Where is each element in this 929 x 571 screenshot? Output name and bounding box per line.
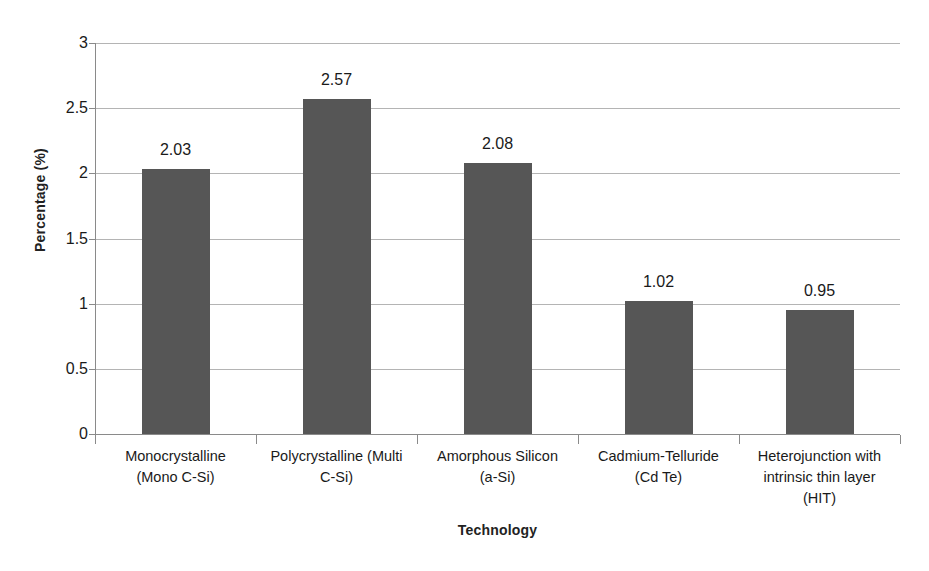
bar-value-label: 1.02 — [609, 274, 709, 290]
category-label-line: Monocrystalline — [95, 446, 256, 467]
category-label-line: (Mono C-Si) — [95, 467, 256, 488]
y-axis-tick-label: 1 — [28, 296, 88, 312]
bar[interactable] — [464, 163, 532, 434]
category-label-line: (a-Si) — [417, 467, 578, 488]
x-axis-category-label: Cadmium-Telluride(Cd Te) — [578, 446, 739, 488]
bar-value-label: 2.03 — [126, 142, 226, 158]
y-axis-tick-label: 0 — [28, 426, 88, 442]
x-axis-category-label: Amorphous Silicon(a-Si) — [417, 446, 578, 488]
category-label-line: Amorphous Silicon — [417, 446, 578, 467]
y-axis-tick — [89, 173, 96, 174]
bar[interactable] — [625, 301, 693, 434]
category-label-line: Heterojunction with — [739, 446, 900, 467]
category-label-line: Polycrystalline (Multi — [256, 446, 417, 467]
y-axis-tick-label: 0.5 — [28, 361, 88, 377]
y-axis-tick-label: 2 — [28, 165, 88, 181]
x-axis-category-label: Monocrystalline(Mono C-Si) — [95, 446, 256, 488]
category-label-line: intrinsic thin layer — [739, 467, 900, 488]
bar[interactable] — [786, 310, 854, 434]
x-axis-tick — [256, 435, 257, 444]
x-axis-tick — [95, 435, 96, 444]
y-axis-tick-labels: 00.511.522.53 — [20, 43, 88, 434]
y-axis-tick — [89, 239, 96, 240]
category-label-line: C-Si) — [256, 467, 417, 488]
bar[interactable] — [142, 169, 210, 434]
category-label-line: (HIT) — [739, 488, 900, 509]
category-label-line: (Cd Te) — [578, 467, 739, 488]
y-axis-tick — [89, 304, 96, 305]
y-axis-tick — [89, 43, 96, 44]
y-axis-tick — [89, 369, 96, 370]
x-axis-tick — [900, 435, 901, 444]
x-axis-category-label: Heterojunction withintrinsic thin layer(… — [739, 446, 900, 509]
bar-value-label: 0.95 — [770, 283, 870, 299]
y-axis-tick-label: 3 — [28, 35, 88, 51]
y-axis-tick-label: 2.5 — [28, 100, 88, 116]
bar-chart: Percentage (%) 00.511.522.53 2.032.572.0… — [0, 0, 929, 571]
gridline — [95, 108, 900, 109]
x-axis-tick — [417, 435, 418, 444]
x-axis-baseline — [95, 434, 900, 435]
bar-value-label: 2.08 — [448, 136, 548, 152]
x-axis-tick — [578, 435, 579, 444]
bar-value-label: 2.57 — [287, 72, 387, 88]
y-axis-tick-label: 1.5 — [28, 231, 88, 247]
x-axis-category-labels: Monocrystalline(Mono C-Si)Polycrystallin… — [95, 446, 900, 522]
x-axis-title: Technology — [95, 522, 900, 538]
x-axis-tick — [739, 435, 740, 444]
gridline — [95, 43, 900, 44]
plot-area: 2.032.572.081.020.95 — [95, 43, 900, 434]
y-axis-tick — [89, 108, 96, 109]
x-axis-category-label: Polycrystalline (MultiC-Si) — [256, 446, 417, 488]
bar[interactable] — [303, 99, 371, 434]
category-label-line: Cadmium-Telluride — [578, 446, 739, 467]
